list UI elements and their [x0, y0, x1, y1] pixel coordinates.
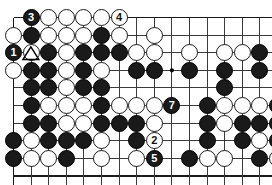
- stone-black[interactable]: [40, 62, 57, 79]
- stone-white[interactable]: [234, 44, 251, 61]
- stone-black[interactable]: [23, 62, 40, 79]
- stone-black[interactable]: [23, 9, 40, 26]
- stone-white[interactable]: [146, 97, 163, 114]
- stone-white[interactable]: [58, 9, 75, 26]
- stone-black[interactable]: [216, 62, 233, 79]
- stone-white[interactable]: [58, 62, 75, 79]
- stone-white[interactable]: [146, 27, 163, 44]
- stone-white[interactable]: [23, 132, 40, 149]
- stone-black[interactable]: [181, 150, 198, 167]
- stone-white[interactable]: [111, 97, 128, 114]
- stone-white[interactable]: [40, 27, 57, 44]
- stone-white[interactable]: [58, 97, 75, 114]
- stone-white[interactable]: [5, 62, 22, 79]
- stone-white[interactable]: [111, 9, 128, 26]
- stone-black[interactable]: [111, 44, 128, 61]
- stone-black[interactable]: [40, 115, 57, 132]
- stone-white[interactable]: [93, 62, 110, 79]
- stone-black[interactable]: [199, 132, 216, 149]
- stone-white[interactable]: [58, 115, 75, 132]
- stone-black[interactable]: [93, 115, 110, 132]
- stone-white[interactable]: [58, 27, 75, 44]
- stone-black[interactable]: [23, 97, 40, 114]
- stone-black[interactable]: [93, 27, 110, 44]
- stone-black[interactable]: [199, 97, 216, 114]
- stone-white[interactable]: [146, 44, 163, 61]
- go-diagram: 341725: [0, 0, 272, 185]
- stone-white[interactable]: [23, 44, 40, 61]
- stone-white[interactable]: [234, 97, 251, 114]
- stone-white[interactable]: [199, 150, 216, 167]
- stone-white[interactable]: [146, 115, 163, 132]
- stone-black[interactable]: [234, 132, 251, 149]
- stone-black[interactable]: [146, 150, 163, 167]
- stone-white[interactable]: [216, 150, 233, 167]
- stone-white[interactable]: [58, 44, 75, 61]
- stone-black[interactable]: [199, 115, 216, 132]
- stone-white[interactable]: [93, 150, 110, 167]
- stone-white[interactable]: [40, 150, 57, 167]
- stone-white[interactable]: [216, 115, 233, 132]
- stone-white[interactable]: [111, 27, 128, 44]
- stone-black[interactable]: [146, 62, 163, 79]
- stone-black[interactable]: [58, 132, 75, 149]
- stone-black[interactable]: [23, 115, 40, 132]
- stone-black[interactable]: [181, 62, 198, 79]
- stone-black[interactable]: [58, 150, 75, 167]
- stone-white[interactable]: [5, 27, 22, 44]
- stone-black[interactable]: [234, 115, 251, 132]
- stone-white[interactable]: [93, 9, 110, 26]
- stone-black[interactable]: [111, 115, 128, 132]
- stone-black[interactable]: [128, 62, 145, 79]
- stone-black[interactable]: [93, 97, 110, 114]
- stone-black[interactable]: [23, 27, 40, 44]
- stone-white[interactable]: [23, 150, 40, 167]
- stone-black[interactable]: [5, 150, 22, 167]
- star-point: [170, 68, 174, 72]
- stone-black[interactable]: [128, 115, 145, 132]
- stone-white[interactable]: [146, 132, 163, 149]
- stone-white[interactable]: [128, 150, 145, 167]
